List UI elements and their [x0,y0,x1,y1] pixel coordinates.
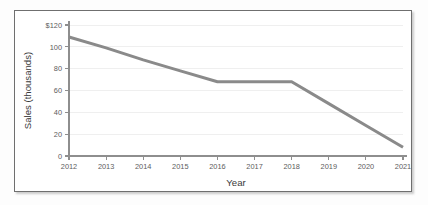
y-tick-label: 0 [58,152,62,161]
y-tick-label: 20 [54,130,62,139]
x-tick-label: 2016 [209,162,225,171]
axes-group [69,21,407,156]
data-series-group [69,37,403,147]
y-tick-label: $120 [46,21,62,30]
x-tick-label: 2014 [135,162,151,171]
x-tick-label: 2021 [395,162,411,171]
chart-frame: 020406080100$120 20122013201420152016201… [14,10,412,192]
data-line-sales [69,37,403,147]
y-tick-label: 80 [54,64,62,73]
x-axis-title: Year [226,177,246,188]
x-tick-label: 2017 [246,162,262,171]
figure-canvas: 020406080100$120 20122013201420152016201… [0,0,428,205]
x-tick-label: 2013 [98,162,114,171]
x-tick-label: 2020 [358,162,374,171]
gridlines-group [69,25,403,156]
y-axis-title: Sales (thousands) [22,52,33,129]
x-tick-label: 2012 [61,162,77,171]
y-tick-label: 100 [50,43,62,52]
x-tick-label: 2018 [283,162,299,171]
y-tick-label: 40 [54,108,62,117]
x-tick-label: 2019 [321,162,337,171]
y-axis-ticks: 020406080100$120 [46,21,69,161]
line-chart-plot: 020406080100$120 20122013201420152016201… [15,11,411,191]
x-axis-ticks: 2012201320142015201620172018201920202021 [61,156,411,171]
x-tick-label: 2015 [172,162,188,171]
y-tick-label: 60 [54,86,62,95]
